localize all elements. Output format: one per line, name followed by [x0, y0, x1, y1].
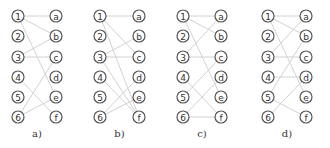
right-node-e: e: [300, 91, 312, 103]
right-node-b: b: [300, 30, 312, 42]
right-node-f: f: [215, 111, 227, 123]
svg-text:d: d: [136, 73, 142, 83]
svg-text:3: 3: [97, 53, 103, 63]
caption-panel-b: b): [100, 128, 140, 139]
left-node-2: 2: [177, 30, 189, 42]
svg-text:5: 5: [15, 93, 21, 103]
svg-text:1: 1: [265, 12, 271, 22]
right-node-a: a: [300, 10, 312, 22]
svg-text:6: 6: [180, 113, 186, 123]
left-node-1: 1: [262, 10, 274, 22]
svg-text:a: a: [218, 12, 224, 22]
left-node-1: 1: [177, 10, 189, 22]
right-node-a: a: [133, 10, 145, 22]
right-node-a: a: [215, 10, 227, 22]
svg-text:a: a: [303, 12, 309, 22]
right-node-c: c: [133, 51, 145, 63]
left-node-1: 1: [94, 10, 106, 22]
svg-text:c: c: [304, 53, 309, 63]
right-node-f: f: [133, 111, 145, 123]
svg-text:1: 1: [97, 12, 103, 22]
svg-text:b: b: [136, 32, 142, 42]
left-node-4: 4: [12, 71, 24, 83]
right-node-e: e: [215, 91, 227, 103]
svg-text:4: 4: [97, 73, 103, 83]
svg-text:a: a: [136, 12, 142, 22]
svg-text:2: 2: [180, 32, 186, 42]
right-node-c: c: [300, 51, 312, 63]
svg-text:d: d: [303, 73, 309, 83]
svg-text:6: 6: [15, 113, 21, 123]
svg-text:2: 2: [97, 32, 103, 42]
left-node-5: 5: [262, 91, 274, 103]
svg-text:c: c: [219, 53, 224, 63]
edge-6-c: [18, 57, 56, 117]
left-node-6: 6: [177, 111, 189, 123]
left-node-2: 2: [94, 30, 106, 42]
panel-c: 123456abcdef: [177, 10, 227, 123]
svg-text:5: 5: [265, 93, 271, 103]
left-node-5: 5: [177, 91, 189, 103]
right-node-e: e: [133, 91, 145, 103]
caption-panel-a: a): [17, 128, 57, 139]
svg-text:c: c: [54, 53, 59, 63]
svg-text:6: 6: [265, 113, 271, 123]
svg-text:2: 2: [15, 32, 21, 42]
svg-text:e: e: [53, 93, 59, 103]
svg-text:2: 2: [265, 32, 271, 42]
right-node-b: b: [50, 30, 62, 42]
left-node-5: 5: [12, 91, 24, 103]
left-node-3: 3: [12, 51, 24, 63]
right-node-e: e: [50, 91, 62, 103]
svg-text:1: 1: [15, 12, 21, 22]
svg-text:c: c: [137, 53, 142, 63]
right-node-b: b: [133, 30, 145, 42]
right-node-f: f: [50, 111, 62, 123]
left-node-6: 6: [262, 111, 274, 123]
right-node-d: d: [50, 71, 62, 83]
left-node-6: 6: [12, 111, 24, 123]
right-node-c: c: [50, 51, 62, 63]
svg-text:1: 1: [180, 12, 186, 22]
svg-text:d: d: [53, 73, 59, 83]
right-node-d: d: [215, 71, 227, 83]
svg-text:5: 5: [180, 93, 186, 103]
svg-text:b: b: [53, 32, 59, 42]
svg-text:b: b: [303, 32, 309, 42]
svg-text:e: e: [218, 93, 224, 103]
svg-text:6: 6: [97, 113, 103, 123]
svg-text:3: 3: [265, 53, 271, 63]
svg-text:4: 4: [180, 73, 186, 83]
left-node-2: 2: [262, 30, 274, 42]
svg-text:b: b: [218, 32, 224, 42]
svg-text:4: 4: [15, 73, 21, 83]
right-node-d: d: [133, 71, 145, 83]
panel-a: 123456abcdef: [12, 10, 62, 123]
svg-text:3: 3: [180, 53, 186, 63]
left-node-3: 3: [94, 51, 106, 63]
left-node-5: 5: [94, 91, 106, 103]
edge-5-b: [268, 36, 306, 97]
right-node-a: a: [50, 10, 62, 22]
svg-text:5: 5: [97, 93, 103, 103]
caption-panel-d: d): [267, 128, 307, 139]
svg-text:a: a: [53, 12, 59, 22]
right-node-f: f: [300, 111, 312, 123]
svg-text:d: d: [218, 73, 224, 83]
bipartite-matching-figure: 123456abcdef123456abcdef123456abcdef1234…: [0, 0, 330, 148]
left-node-6: 6: [94, 111, 106, 123]
right-node-b: b: [215, 30, 227, 42]
left-node-1: 1: [12, 10, 24, 22]
caption-panel-c: c): [182, 128, 222, 139]
svg-text:4: 4: [265, 73, 271, 83]
left-node-4: 4: [94, 71, 106, 83]
right-node-c: c: [215, 51, 227, 63]
right-node-d: d: [300, 71, 312, 83]
svg-text:e: e: [136, 93, 142, 103]
left-node-3: 3: [177, 51, 189, 63]
left-node-2: 2: [12, 30, 24, 42]
edge-3-b: [100, 36, 139, 57]
svg-text:3: 3: [15, 53, 21, 63]
panel-d: 123456abcdef: [262, 10, 312, 123]
svg-text:e: e: [303, 93, 309, 103]
